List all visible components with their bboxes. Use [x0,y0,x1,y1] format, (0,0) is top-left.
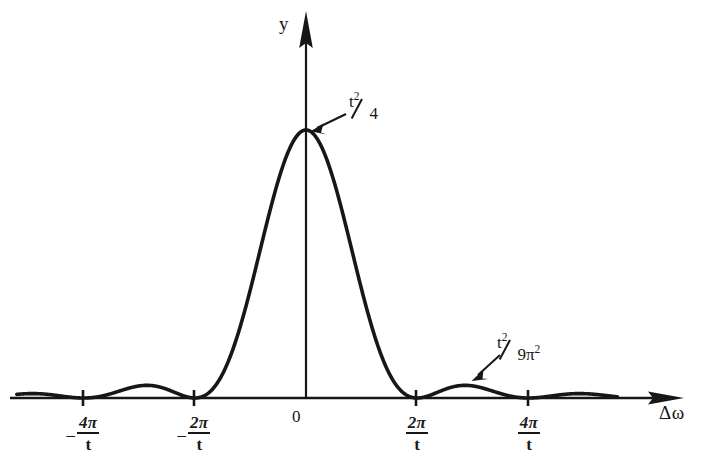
tick-denominator: t [77,434,99,453]
sinc-squared-figure [0,0,714,471]
x-axis-label: Δω [659,403,685,422]
peak-value-annotation: t24 [349,97,381,118]
origin-label: 0 [292,408,301,425]
tick-label-neg-2pi-t: – 2π t [158,414,230,453]
tick-numerator: 2π [406,414,428,432]
tick-label-2pi-t: 2π t [395,414,439,453]
peak-denominator: 4 [370,105,379,122]
y-axis-arrowhead [299,11,313,48]
sidelobe-annotation-arrow [472,355,501,381]
minus-sign: – [178,426,187,443]
slant-fraction-peak: t24 [349,98,381,118]
minus-sign: – [67,426,76,443]
peak-annotation-arrow [311,114,347,135]
tick-numerator: 4π [77,414,99,432]
tick-denominator: t [188,434,210,453]
tick-denominator: t [518,434,540,453]
tick-label-4pi-t: 4π t [507,414,551,453]
sidelobe-denominator: 9π2 [518,346,541,363]
tick-label-neg-4pi-t: – 4π t [47,414,119,453]
tick-numerator: 2π [188,414,210,432]
tick-numerator: 4π [518,414,540,432]
tick-denominator: t [406,434,428,453]
y-axis-label: y [279,14,289,33]
sidelobe-value-annotation: t29π2 [497,339,543,359]
slant-fraction-sidelobe: t29π2 [497,339,543,359]
